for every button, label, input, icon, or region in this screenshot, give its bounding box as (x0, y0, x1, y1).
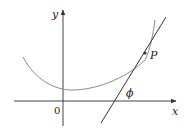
origin-label: 0 (54, 105, 60, 116)
diagram-canvas: y x 0 P ϕ (0, 0, 187, 130)
angle-phi-label: ϕ (126, 87, 134, 100)
curve (23, 20, 155, 90)
tangent-line (101, 17, 166, 123)
point-p (143, 51, 146, 54)
y-axis-label: y (51, 8, 59, 21)
point-p-label: P (149, 49, 158, 62)
x-axis-label: x (172, 105, 179, 118)
